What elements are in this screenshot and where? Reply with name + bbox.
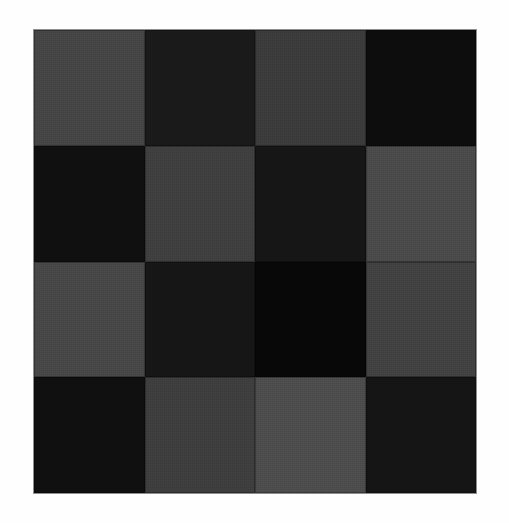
tile-r1c1	[145, 146, 256, 262]
tile-r3c1	[145, 377, 256, 493]
tile-r2c2	[255, 262, 366, 378]
checkerboard-grid	[33, 29, 477, 494]
tile-r2c0	[34, 262, 145, 378]
tile-r0c2	[255, 30, 366, 146]
tile-r0c0	[34, 30, 145, 146]
tile-r0c1	[145, 30, 256, 146]
tile-r0c3	[366, 30, 477, 146]
tile-r1c0	[34, 146, 145, 262]
tile-r1c2	[255, 146, 366, 262]
tile-r2c3	[366, 262, 477, 378]
tile-r2c1	[145, 262, 256, 378]
tile-r3c3	[366, 377, 477, 493]
artwork-canvas	[0, 0, 509, 523]
tile-r3c2	[255, 377, 366, 493]
tile-r3c0	[34, 377, 145, 493]
tile-r1c3	[366, 146, 477, 262]
